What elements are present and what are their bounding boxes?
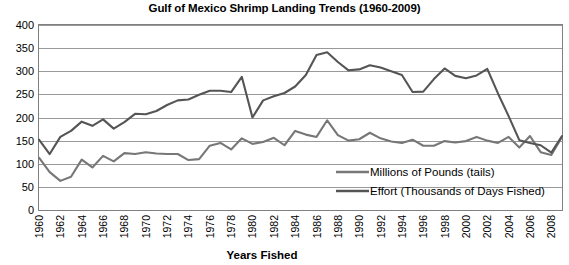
x-axis-tick-label: 1984 [289, 215, 301, 239]
y-axis-tick-label: 150 [16, 135, 34, 147]
y-axis-tick-label: 100 [16, 158, 34, 170]
y-axis-tick-label: 300 [16, 65, 34, 77]
x-axis-tick-label: 1976 [204, 215, 216, 239]
y-axis-tick-label: 250 [16, 88, 34, 100]
chart-legend: Millions of Pounds (tails)Effort (Thousa… [336, 166, 545, 197]
legend-label-2: Effort (Thousands of Days Fished) [370, 185, 545, 197]
x-axis-tick-label: 1960 [33, 215, 45, 239]
x-axis-tick-label: 1968 [118, 215, 130, 239]
x-axis-tick-label: 1994 [396, 215, 408, 239]
x-axis-title: Years Fished [227, 249, 298, 261]
x-axis-tick-label: 1988 [332, 215, 344, 239]
chart-plot: 050100150200250300350400 196019621964196… [0, 0, 569, 265]
x-axis-tick-label: 1978 [225, 215, 237, 239]
x-axis-tick-label: 1990 [353, 215, 365, 239]
xtick-labels-group: 1960196219641966196819701972197419761978… [33, 215, 557, 239]
y-axis-tick-label: 200 [16, 112, 34, 124]
y-axis-tick-label: 350 [16, 42, 34, 54]
x-axis-tick-label: 2000 [460, 215, 472, 239]
x-axis-tick-label: 1972 [161, 215, 173, 239]
x-axis-tick-label: 2006 [524, 215, 536, 239]
gridlines-group [39, 26, 562, 211]
x-axis-tick-label: 1966 [97, 215, 109, 239]
x-axis-tick-label: 2004 [503, 215, 515, 239]
x-axis-tick-label: 1980 [246, 215, 258, 239]
y-axis-tick-label: 400 [16, 19, 34, 31]
x-axis-tick-label: 1970 [140, 215, 152, 239]
legend-label-1: Millions of Pounds (tails) [370, 166, 495, 178]
x-axis-tick-label: 2008 [545, 215, 557, 239]
x-axis-tick-label: 1964 [76, 215, 88, 239]
x-axis-tick-label: 1986 [311, 215, 323, 239]
x-axis-tick-label: 1974 [182, 215, 194, 239]
ytick-labels-group: 050100150200250300350400 [16, 19, 34, 216]
y-axis-tick-label: 50 [22, 181, 34, 193]
x-axis-tick-label: 1996 [417, 215, 429, 239]
y-axis-tick-label: 0 [28, 204, 34, 216]
x-axis-tick-label: 1962 [54, 215, 66, 239]
plot-area-border [39, 25, 563, 211]
x-axis-tick-label: 1992 [375, 215, 387, 239]
x-axis-tick-label: 1998 [439, 215, 451, 239]
x-axis-tick-label: 2002 [481, 215, 493, 239]
x-axis-tick-label: 1982 [268, 215, 280, 239]
chart-container: Gulf of Mexico Shrimp Landing Trends (19… [0, 0, 569, 265]
